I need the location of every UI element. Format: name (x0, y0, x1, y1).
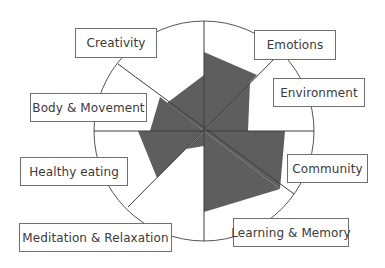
label-text: Emotions (267, 38, 324, 52)
label-learning-memory: Learning & Memory (233, 218, 349, 247)
label-environment: Environment (273, 78, 365, 107)
label-body-movement: Body & Movement (30, 93, 147, 122)
label-text: Environment (280, 86, 358, 100)
label-text: Community (292, 162, 362, 176)
label-creativity: Creativity (75, 28, 157, 58)
label-emotions: Emotions (254, 30, 336, 60)
score-area (138, 52, 285, 212)
label-text: Healthy eating (29, 165, 119, 179)
sector-healthy-eating (138, 131, 204, 178)
label-text: Learning & Memory (231, 226, 351, 240)
label-text: Meditation & Relaxation (22, 231, 168, 245)
label-meditation-relaxation: Meditation & Relaxation (19, 223, 172, 252)
label-community: Community (287, 154, 368, 183)
label-text: Creativity (86, 36, 145, 50)
label-healthy-eating: Healthy eating (20, 157, 128, 186)
label-text: Body & Movement (32, 101, 144, 115)
